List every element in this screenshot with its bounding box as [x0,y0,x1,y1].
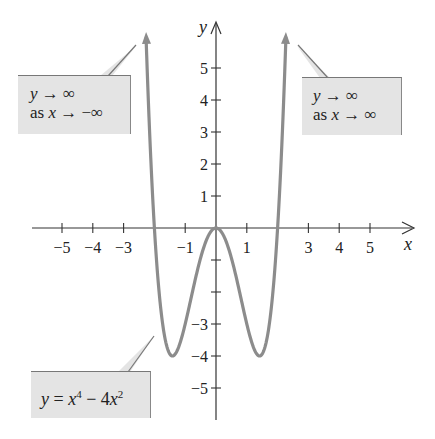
y-tick-label: 3 [200,124,208,141]
x-tick-label: 4 [335,239,343,256]
equation-callout: y = x4 − 4x2 [31,371,151,418]
arrow-infinity: → ∞ [38,84,76,103]
arrow-infinity: → ∞ [321,86,359,105]
var-x: x [48,103,56,122]
y-tick-label: −3 [191,316,208,333]
left-callout-line1: y → ∞ [30,84,130,103]
curve-right-arrowhead-icon [281,32,290,44]
var-x: x [68,389,76,409]
var-y: y [41,389,49,409]
as-text: as [313,105,331,124]
x-axis: −5−4−3−11345 x [32,222,414,256]
x-tick-label: 1 [243,239,251,256]
var-y: y [313,86,321,105]
x-tick-label: −1 [177,239,194,256]
y-tick-label: −4 [191,348,208,365]
x-tick-label: −3 [115,239,132,256]
right-callout-pointer-edge [298,45,328,78]
right-callout-line2: as x → ∞ [313,105,401,124]
left-end-behavior-callout: y → ∞ as x → −∞ [18,75,131,134]
equation-callout-pointer [118,336,154,372]
y-tick-label: −5 [191,380,208,397]
right-callout-line1: y → ∞ [313,86,401,105]
x-tick-label: −5 [53,239,70,256]
exponent-2: 2 [118,388,124,400]
arrow-neg-infinity: → −∞ [56,103,103,122]
minus-four: − 4 [82,389,110,409]
equals-sign: = [49,389,68,409]
y-tick-label: 2 [200,156,208,173]
right-end-behavior-callout: y → ∞ as x → ∞ [302,77,402,135]
x-tick-label: 3 [304,239,312,256]
x-axis-label: x [403,234,412,254]
y-axis: −5−4−312345 y [191,17,221,420]
y-tick-label: 4 [200,92,208,109]
y-axis-label: y [197,17,207,37]
var-y: y [30,84,38,103]
y-tick-label: 5 [200,60,208,77]
x-tick-label: −4 [84,239,101,256]
curve-left-arrowhead-icon [142,32,151,44]
left-callout-pointer-edge [108,45,136,76]
x-tick-label: 5 [366,239,374,256]
arrow-infinity: → ∞ [339,105,377,124]
var-x: x [110,389,118,409]
as-text: as [30,103,48,122]
left-callout-line2: as x → −∞ [30,103,130,122]
equation-callout-pointer-edge [128,336,154,372]
y-tick-label: 1 [200,188,208,205]
var-x: x [331,105,339,124]
